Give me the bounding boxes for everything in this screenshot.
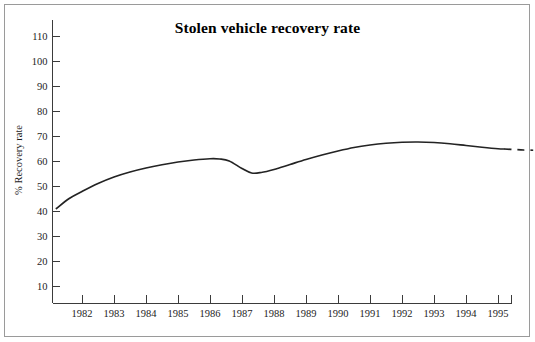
recovery-rate-line-projected — [504, 149, 533, 150]
x-tick-label: 1994 — [456, 308, 478, 319]
y-tick-label: 100 — [32, 56, 48, 67]
x-tick-label: 1987 — [232, 308, 253, 319]
chart-figure: Stolen vehicle recovery rate 10203040506… — [0, 0, 535, 342]
x-tick-label: 1984 — [136, 308, 158, 319]
x-tick-label: 1986 — [200, 308, 221, 319]
y-tick-group: 102030405060708090100110 — [32, 31, 60, 292]
x-tick-label: 1988 — [264, 308, 285, 319]
x-tick-label: 1990 — [328, 308, 349, 319]
x-tick-label: 1989 — [296, 308, 317, 319]
x-tick-label: 1985 — [168, 308, 189, 319]
y-tick-label: 40 — [37, 206, 48, 217]
y-tick-label: 80 — [37, 106, 48, 117]
x-tick-label: 1995 — [488, 308, 509, 319]
y-axis: 102030405060708090100110 % Recovery rate — [13, 20, 60, 303]
y-tick-label: 20 — [37, 256, 48, 267]
y-tick-label: 110 — [32, 31, 47, 42]
x-tick-label: 1982 — [72, 308, 93, 319]
x-tick-group: 1982198319841985198619871988198919901991… — [72, 295, 509, 319]
recovery-rate-line-actual — [56, 142, 504, 209]
y-tick-label: 50 — [37, 181, 48, 192]
y-axis-title: % Recovery rate — [13, 125, 24, 195]
y-tick-label: 30 — [37, 231, 48, 242]
x-tick-label: 1983 — [104, 308, 125, 319]
y-tick-label: 70 — [37, 131, 48, 142]
y-tick-label: 60 — [37, 156, 48, 167]
x-tick-label: 1993 — [424, 308, 445, 319]
x-tick-label: 1992 — [392, 308, 413, 319]
y-tick-label: 90 — [37, 81, 48, 92]
x-tick-label: 1991 — [360, 308, 381, 319]
y-tick-label: 10 — [37, 281, 48, 292]
chart-plot-area: 102030405060708090100110 % Recovery rate… — [0, 0, 535, 342]
series-group — [56, 142, 533, 209]
x-axis: 1982198319841985198619871988198919901991… — [53, 295, 513, 319]
